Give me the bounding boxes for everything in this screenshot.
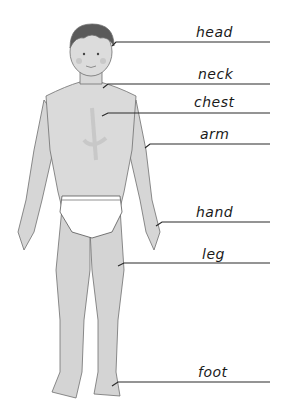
label-neck: neck xyxy=(198,66,233,82)
boy-illustration xyxy=(18,24,160,398)
label-leg: leg xyxy=(202,246,225,262)
leg-line xyxy=(118,263,270,266)
hand-line xyxy=(156,222,270,226)
body-diagram xyxy=(0,0,284,410)
label-foot: foot xyxy=(198,364,228,380)
label-arm: arm xyxy=(200,126,229,142)
label-hand: hand xyxy=(196,204,233,220)
head-line xyxy=(112,42,270,46)
arm-line xyxy=(145,144,270,148)
label-chest: chest xyxy=(194,94,234,110)
label-head: head xyxy=(196,24,233,40)
foot-line xyxy=(112,382,270,386)
neck-line xyxy=(103,84,270,88)
